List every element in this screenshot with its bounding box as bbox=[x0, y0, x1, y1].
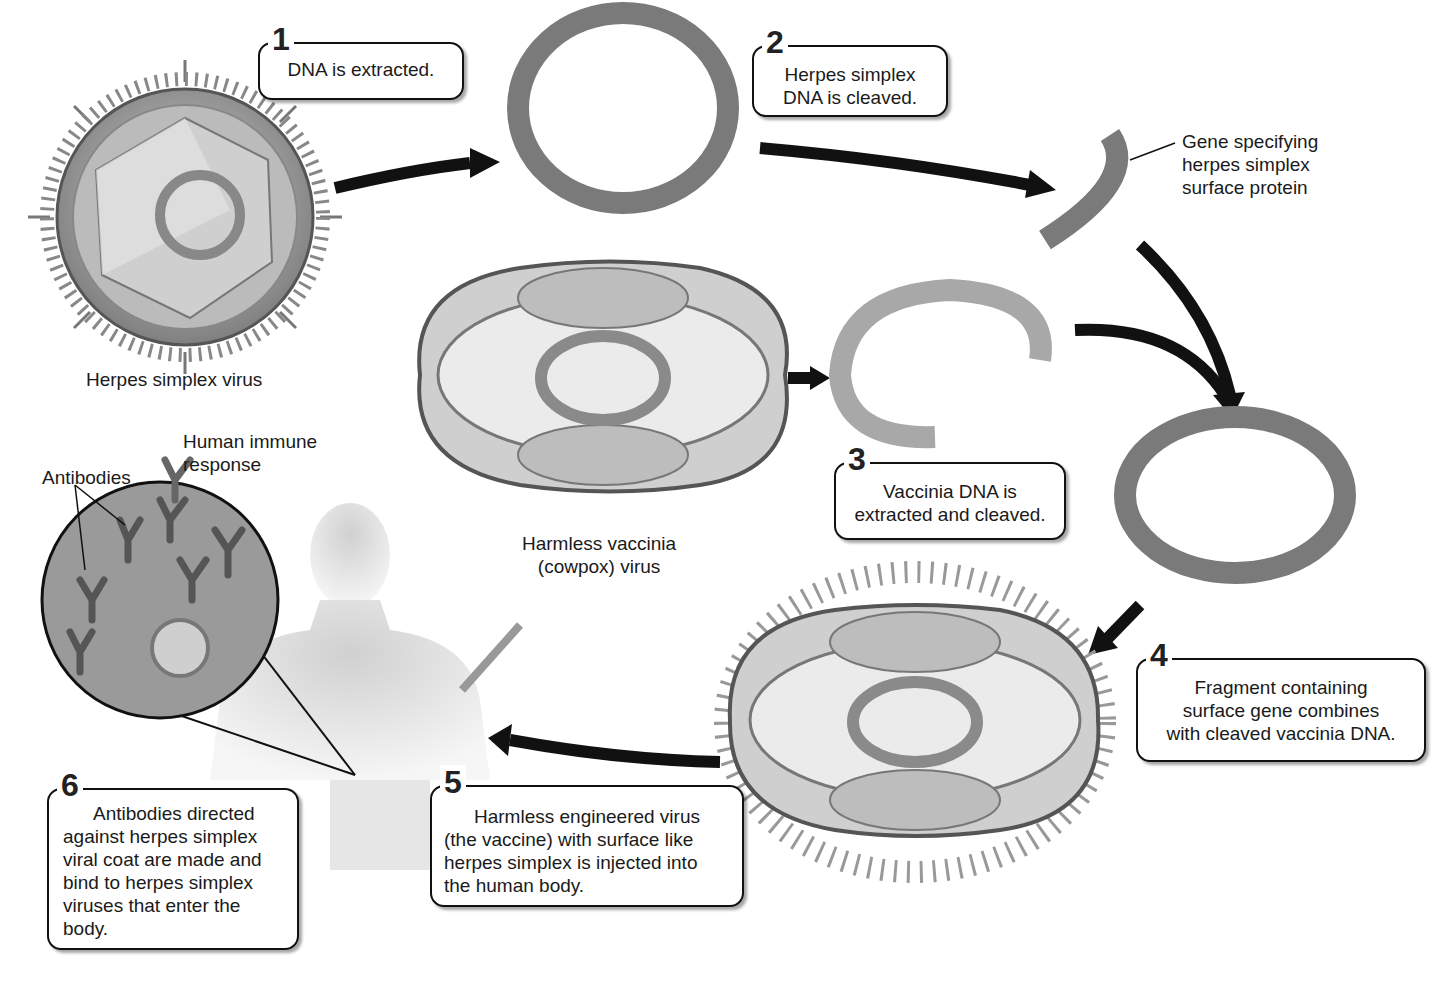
step-number: 2 bbox=[762, 25, 788, 59]
step-text: Antibodies directed bbox=[63, 802, 287, 825]
gene-fragment-icon bbox=[1045, 135, 1117, 240]
step-4-box: 4 Fragment containing surface gene combi… bbox=[1136, 658, 1426, 762]
step-text: viral coat are made and bbox=[63, 848, 287, 871]
step-text: body. bbox=[63, 917, 287, 940]
step-number: 5 bbox=[440, 765, 466, 799]
step-text: herpes simplex is injected into bbox=[444, 851, 732, 874]
immune-response-label: Human immune response bbox=[183, 430, 317, 476]
step-5-box: 5 Harmless engineered virus (the vaccine… bbox=[430, 785, 744, 907]
gene-label: Gene specifying herpes simplex surface p… bbox=[1182, 130, 1318, 199]
step-text: (the vaccine) with surface like bbox=[444, 828, 732, 851]
step-6-box: 6 Antibodies directed against herpes sim… bbox=[47, 788, 299, 950]
step-3-box: 3 Vaccinia DNA is extracted and cleaved. bbox=[834, 462, 1066, 540]
step-text: Fragment containing bbox=[1148, 676, 1414, 699]
step-1-box: 1 DNA is extracted. bbox=[258, 42, 464, 100]
step-number: 3 bbox=[844, 442, 870, 476]
step-text: Herpes simplex bbox=[764, 63, 936, 86]
step-text: the human body. bbox=[444, 874, 732, 897]
vaccinia-label: Harmless vaccinia (cowpox) virus bbox=[522, 532, 676, 578]
step-number: 6 bbox=[57, 768, 83, 802]
label-text: (cowpox) virus bbox=[522, 555, 676, 578]
step-text: against herpes simplex bbox=[63, 825, 287, 848]
recombinant-dna-ring-icon bbox=[1125, 417, 1345, 573]
step-text: Harmless engineered virus bbox=[444, 805, 732, 828]
step-text: DNA is extracted. bbox=[288, 59, 435, 80]
step-2-box: 2 Herpes simplex DNA is cleaved. bbox=[752, 45, 948, 117]
antibodies-label: Antibodies bbox=[42, 466, 131, 489]
label-text: response bbox=[183, 453, 317, 476]
label-text: surface protein bbox=[1182, 176, 1318, 199]
step-text: Vaccinia DNA is bbox=[846, 480, 1054, 503]
step-text: with cleaved vaccinia DNA. bbox=[1148, 722, 1414, 745]
step-text: bind to herpes simplex bbox=[63, 871, 287, 894]
herpes-virus-label: Herpes simplex virus bbox=[86, 368, 262, 391]
step-number: 4 bbox=[1146, 638, 1172, 672]
step-text: surface gene combines bbox=[1148, 699, 1414, 722]
herpes-dna-ring-icon bbox=[518, 13, 728, 203]
herpes-virus-icon bbox=[28, 60, 342, 374]
syringe-icon bbox=[462, 625, 520, 690]
label-text: Human immune bbox=[183, 430, 317, 453]
vaccinia-dna-open-ring-icon bbox=[840, 290, 1041, 437]
vaccinia-virus-icon bbox=[419, 262, 787, 492]
step-text: DNA is cleaved. bbox=[764, 86, 936, 109]
step-number: 1 bbox=[268, 22, 294, 56]
step-text: viruses that enter the bbox=[63, 894, 287, 917]
engineered-virus-icon bbox=[725, 572, 1105, 872]
label-text: herpes simplex bbox=[1182, 153, 1318, 176]
step-text: extracted and cleaved. bbox=[846, 503, 1054, 526]
label-text: Harmless vaccinia bbox=[522, 532, 676, 555]
label-text: Gene specifying bbox=[1182, 130, 1318, 153]
